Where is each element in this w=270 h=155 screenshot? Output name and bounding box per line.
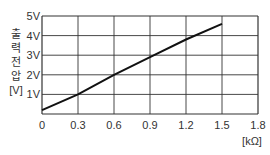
x-tick-label: 0.3 bbox=[70, 119, 85, 131]
x-tick-label: 0.9 bbox=[142, 119, 157, 131]
x-tick-label: 0 bbox=[39, 119, 45, 131]
y-label-char: 압 bbox=[11, 70, 21, 83]
y-tick-label: 2V bbox=[27, 69, 41, 81]
x-axis-ticks: 00.30.60.91.21.51.8 bbox=[39, 119, 266, 131]
y-axis-label: 출력전압[V] bbox=[9, 28, 22, 96]
output-voltage-chart: 1V2V3V4V5V 00.30.60.91.21.51.8 출력전압[V] [… bbox=[0, 0, 270, 155]
y-label-char: 전 bbox=[11, 56, 21, 69]
x-axis-label: [kΩ] bbox=[242, 135, 262, 147]
x-tick-label: 1.2 bbox=[178, 119, 193, 131]
data-line bbox=[42, 24, 222, 110]
y-tick-label: 5V bbox=[27, 10, 41, 22]
y-label-char: 력 bbox=[11, 42, 21, 55]
x-tick-label: 1.5 bbox=[214, 119, 229, 131]
y-tick-label: 4V bbox=[27, 30, 41, 42]
x-tick-label: 0.6 bbox=[106, 119, 121, 131]
y-label-char: 출 bbox=[11, 28, 21, 41]
y-tick-label: 3V bbox=[27, 49, 41, 61]
y-axis-ticks: 1V2V3V4V5V bbox=[27, 10, 41, 100]
x-tick-label: 1.8 bbox=[250, 119, 265, 131]
y-label-unit: [V] bbox=[9, 84, 22, 96]
y-tick-label: 1V bbox=[27, 88, 41, 100]
plot-grid bbox=[42, 16, 258, 114]
series-line bbox=[42, 24, 222, 110]
